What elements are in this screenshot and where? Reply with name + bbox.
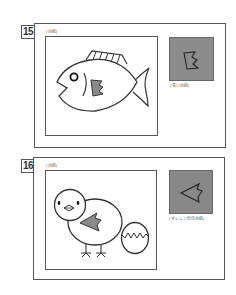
- mount-board-15: [45, 36, 158, 136]
- mount-label-15: (台紙): [46, 29, 57, 34]
- blue-mount-label: (青い台紙): [170, 83, 189, 88]
- mount-label-16: (台紙): [46, 163, 57, 168]
- orange-mount-label: (オレンジ色の台紙): [169, 216, 204, 221]
- orange-mount-swatch: [169, 170, 213, 214]
- chick-illustration: [45, 170, 157, 270]
- arrowhead-cutout-icon: [170, 171, 214, 215]
- zigzag-cutout-icon: [170, 38, 215, 82]
- mount-board-16: [45, 170, 157, 270]
- problem-number-15: 15: [21, 25, 35, 39]
- blue-mount-swatch: [169, 37, 214, 81]
- fish-illustration: [45, 36, 158, 136]
